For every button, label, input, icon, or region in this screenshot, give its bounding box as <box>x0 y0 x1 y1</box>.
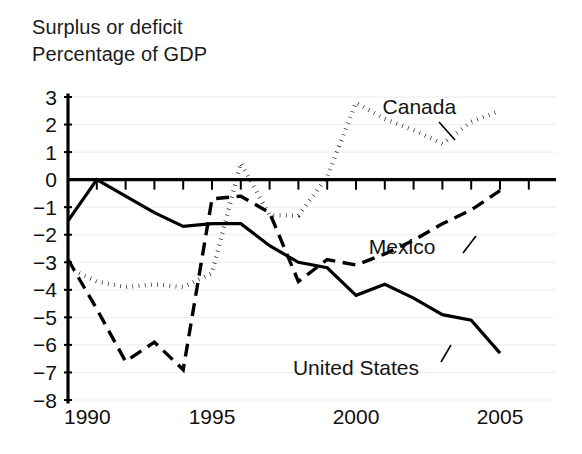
x-tick-label: 1995 <box>189 405 236 428</box>
series-line-canada <box>68 103 500 288</box>
line-chart-plot: 3210−1−2−3−4−5−6−7−8 1990199520002005 Ca… <box>0 0 582 454</box>
y-tick-label: −3 <box>33 251 57 274</box>
x-tick-label: 1990 <box>64 405 111 428</box>
series-annotation-united-states: United States <box>293 356 419 379</box>
y-tick-label: 2 <box>45 113 57 136</box>
y-tick-label: −6 <box>33 333 57 356</box>
y-tick-label: −7 <box>33 361 57 384</box>
y-tick-label: −1 <box>33 196 57 219</box>
x-tick-labels: 1990199520002005 <box>64 405 523 428</box>
series-line-united-states <box>68 180 500 354</box>
x-tick-marks <box>97 181 529 190</box>
chart-figure: Surplus or deficit Percentage of GDP 321… <box>0 0 582 454</box>
y-tick-label: 0 <box>45 168 57 191</box>
y-tick-label: −5 <box>33 306 57 329</box>
y-tick-label: 3 <box>45 86 57 109</box>
y-tick-label: 1 <box>45 141 57 164</box>
x-tick-label: 2005 <box>477 405 524 428</box>
series-annotation-mexico: Mexico <box>369 235 436 258</box>
series-annotations: CanadaMexicoUnited States <box>293 95 457 380</box>
series-annotation-canada: Canada <box>383 95 457 118</box>
gridlines <box>68 97 556 400</box>
x-tick-label: 2000 <box>333 405 380 428</box>
y-tick-label: −4 <box>33 278 57 301</box>
y-tick-labels: 3210−1−2−3−4−5−6−7−8 <box>33 86 57 412</box>
annotation-leader-lines <box>439 122 476 362</box>
leader-line-mexico <box>463 236 476 253</box>
y-tick-label: −2 <box>33 223 57 246</box>
y-tick-label: −8 <box>33 389 57 412</box>
series-line-mexico <box>68 191 500 370</box>
leader-line-united-states <box>441 345 451 362</box>
